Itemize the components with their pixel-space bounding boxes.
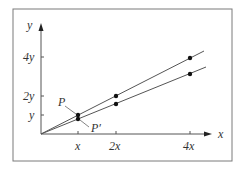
point-p-label: P <box>57 95 66 109</box>
x-axis-arrow-icon <box>204 132 212 137</box>
x-tick-4x: 4x <box>183 139 195 153</box>
y-axis-arrow-icon <box>39 23 44 31</box>
upper-line <box>41 51 204 134</box>
lower-line <box>41 67 206 134</box>
point-upper-2x <box>114 94 118 98</box>
point-p-prime <box>76 117 80 121</box>
y-tick-4y: 4y <box>23 50 35 64</box>
x-tick-x: x <box>74 139 81 153</box>
point-p <box>76 113 80 117</box>
point-lower-2x <box>114 102 118 106</box>
x-axis-label: x <box>217 127 224 141</box>
y-tick-2y: 2y <box>23 89 35 103</box>
p-leader-line <box>65 106 76 114</box>
point-lower-4x <box>188 72 192 76</box>
x-axis: x <box>41 127 224 141</box>
figure-frame <box>13 9 232 161</box>
y-axis-label: y <box>26 18 33 32</box>
y-tick-y: y <box>28 108 35 122</box>
point-upper-4x <box>188 56 192 60</box>
x-tick-2x: 2x <box>109 139 121 153</box>
point-p-prime-label: P′ <box>90 121 101 135</box>
p-prime-leader-line <box>80 120 89 127</box>
diagram-canvas: y x x 2x 4x 4y 2y y P P′ <box>0 0 244 174</box>
